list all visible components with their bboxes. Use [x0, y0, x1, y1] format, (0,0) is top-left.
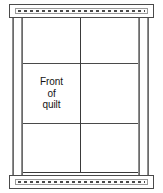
top-rail-stitch-pattern-icon — [18, 10, 145, 12]
right-outer-post — [147, 14, 149, 176]
quilt-frame-diagram: Front of quilt — [0, 0, 163, 193]
left-outer-post — [12, 14, 14, 176]
top-rail — [9, 4, 154, 18]
bottom-rail-stitch-pattern-icon — [18, 181, 145, 183]
top-rail-inner-band — [15, 8, 148, 14]
right-inner-post — [138, 14, 140, 176]
quilt-front-label-line-1: Front — [40, 76, 63, 88]
quilt-front-label-line-2: of — [47, 88, 55, 100]
quilt-front-label-line-3: quilt — [43, 99, 61, 111]
bottom-rail — [9, 175, 154, 189]
quilt-grid-line-vertical-1 — [80, 17, 81, 173]
quilt-front-label: Front of quilt — [23, 64, 80, 123]
bottom-rail-inner-band — [15, 179, 148, 185]
